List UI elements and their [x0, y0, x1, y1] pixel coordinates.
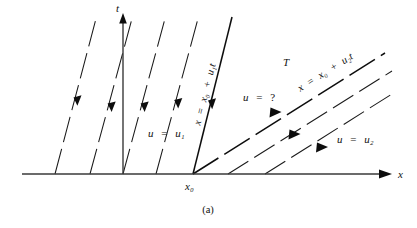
- boundary-label-u1-lhs: x: [191, 119, 203, 127]
- direction-arrow-icon: [289, 130, 301, 140]
- characteristic-family-u1: [55, 15, 199, 174]
- t-axis-label: t: [116, 2, 120, 14]
- boundary-line-segment: [193, 53, 385, 174]
- t-axis: t: [116, 2, 127, 174]
- characteristic-line-segment: [90, 15, 133, 174]
- figure-canvas: t x x₀ u = u₁ u = ?: [0, 0, 417, 228]
- boundary-label-u2-lhs: x: [295, 81, 306, 94]
- boundary-label-u2-eq: =: [305, 75, 316, 88]
- region-label-u1: u = u₁: [148, 127, 185, 139]
- characteristic-line-segment: [123, 15, 166, 174]
- x-axis-arrow-icon: [379, 170, 392, 179]
- boundary-label-u2-plus: +: [328, 60, 339, 73]
- characteristic-line: [123, 15, 166, 174]
- region-label-fan-var: u: [243, 91, 249, 103]
- region-label-u2: u = u₂: [337, 133, 374, 145]
- boundary-label-u1-eq: =: [194, 107, 206, 115]
- region-label-u2-var: u: [337, 133, 343, 145]
- boundary-label-u1-rhs-a: x₀: [197, 92, 210, 104]
- x0-label: x₀: [184, 180, 194, 192]
- region-label-fan-eq: =: [256, 91, 262, 103]
- direction-arrow-icon: [270, 108, 282, 118]
- boundary-label-u2-text: x = x₀ + u₂t: [295, 50, 356, 94]
- region-label-fan-text: u = ?: [243, 91, 275, 103]
- boundary-label-u2-rhs-a: x₀: [315, 67, 329, 81]
- boundary-label-u1-rhs-b: u₁t: [204, 61, 218, 76]
- boundary-label-u2-rhs-b: u₂t: [339, 50, 356, 66]
- region-label-fan-value: ?: [270, 91, 275, 103]
- boundary-characteristic-u2: [193, 53, 385, 174]
- boundary-label-u1-text: x = x₀ + u₁t: [191, 61, 217, 127]
- region-label-u1-var: u: [148, 127, 154, 139]
- region-marker-T: T: [283, 56, 290, 68]
- characteristic-line: [156, 15, 199, 174]
- region-label-fan: u = ?: [243, 91, 275, 103]
- direction-arrow-icon: [316, 143, 328, 153]
- region-marker-T-text: T: [283, 56, 290, 68]
- x-axis: x: [22, 168, 403, 180]
- region-label-u1-eq: =: [161, 127, 167, 139]
- t-axis-arrow-icon: [119, 13, 127, 24]
- x-axis-label: x: [397, 168, 403, 180]
- boundary-label-u1-plus: +: [201, 80, 213, 88]
- characteristic-line: [55, 15, 97, 174]
- x0-label-text: x₀: [184, 180, 194, 192]
- region-label-u2-eq: =: [350, 133, 356, 145]
- region-label-u2-text: u = u₂: [337, 133, 374, 145]
- boundary-label-u2: x = x₀ + u₂t: [295, 50, 356, 94]
- characteristic-line-segment: [55, 15, 97, 174]
- region-label-u1-value: u₁: [175, 127, 185, 139]
- characteristic-line-segment: [156, 15, 199, 174]
- region-label-u2-value: u₂: [364, 133, 374, 145]
- characteristics-figure: t x x₀ u = u₁ u = ?: [0, 0, 417, 228]
- boundary-label-u1: x = x₀ + u₁t: [191, 61, 217, 127]
- characteristic-line: [90, 15, 133, 174]
- figure-caption: (a): [202, 204, 214, 216]
- x0-tick: x₀: [184, 180, 194, 192]
- region-label-u1-text: u = u₁: [148, 127, 185, 139]
